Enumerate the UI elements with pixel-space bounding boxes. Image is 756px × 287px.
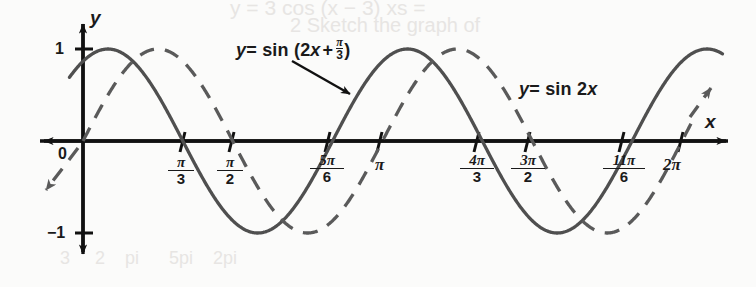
curve-label-equals: = sin (2 xyxy=(246,40,310,60)
curve-label-frac-num: π xyxy=(336,36,343,49)
x-tick-denominator: 3 xyxy=(460,169,494,184)
x-tick-label-2pi: 2π xyxy=(663,155,681,173)
x-tick-numerator: π xyxy=(168,155,194,171)
curve-label-var: x xyxy=(310,40,320,60)
x-tick-label-3pi-over-2: 3π 2 xyxy=(511,153,545,185)
curve-label-y: y xyxy=(519,79,529,99)
curve-label-var: x xyxy=(587,79,597,99)
y-tick-label-minus-1: −1 xyxy=(47,225,65,241)
curve-label-plus: + xyxy=(323,40,334,60)
x-tick-numerator: π xyxy=(217,155,243,171)
x-tick-denominator: 3 xyxy=(168,171,194,186)
x-tick-text: 2π xyxy=(663,155,681,174)
x-tick-denominator: 6 xyxy=(310,169,344,184)
x-tick-numerator: 4π xyxy=(460,153,494,169)
x-tick-denominator: 2 xyxy=(511,169,545,184)
curve-label-close-paren: ) xyxy=(344,40,350,60)
x-tick-denominator: 6 xyxy=(603,169,645,184)
x-tick-label-pi-over-2: π 2 xyxy=(217,155,243,187)
x-tick-numerator: 3π xyxy=(511,153,545,169)
x-tick-label-5pi-over-6: 5π 6 xyxy=(310,153,344,185)
x-tick-label-4pi-over-3: 4π 3 xyxy=(460,153,494,185)
y-axis-label: y xyxy=(90,8,101,27)
x-axis-label: x xyxy=(705,112,716,131)
curve-label-fraction: π3 xyxy=(336,36,343,62)
x-tick-numerator: 5π xyxy=(310,153,344,169)
origin-label: 0 xyxy=(58,146,67,162)
y-tick-label-1: 1 xyxy=(55,41,64,57)
curve-label-basic: y= sin 2x xyxy=(519,80,597,98)
coordinate-plot xyxy=(0,0,756,287)
x-tick-label-pi: π xyxy=(375,156,384,173)
x-tick-label-11pi-over-6: 11π 6 xyxy=(603,153,645,185)
curve-label-y: y xyxy=(236,40,246,60)
x-tick-denominator: 2 xyxy=(217,171,243,186)
label-leader-line xyxy=(292,61,350,94)
curve-label-shifted: y= sin (2x+π3) xyxy=(236,36,350,62)
x-tick-text: π xyxy=(375,155,384,174)
curve-label-frac-den: 3 xyxy=(336,49,343,61)
curve-label-equals: = sin 2 xyxy=(529,79,587,99)
x-tick-label-pi-over-3: π 3 xyxy=(168,155,194,187)
figure-canvas: y = 3 cos (x − 3) xs = 2 Sketch the grap… xyxy=(0,0,756,287)
x-tick-numerator: 11π xyxy=(603,153,645,169)
